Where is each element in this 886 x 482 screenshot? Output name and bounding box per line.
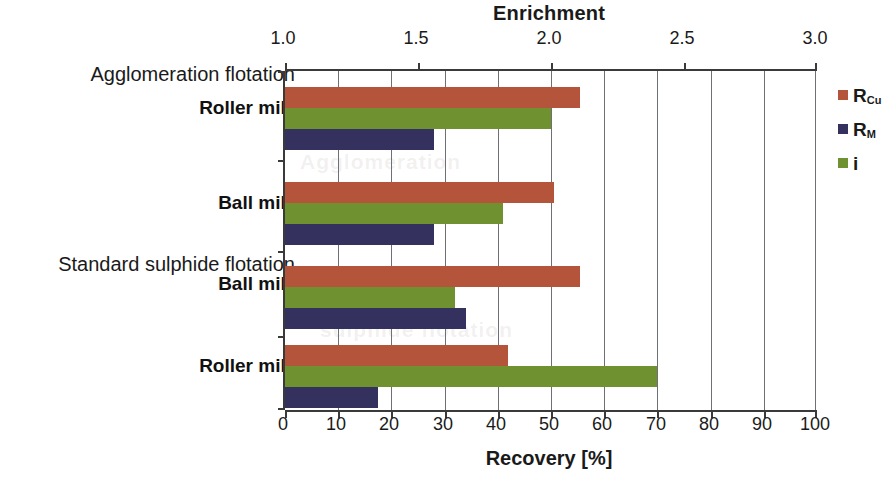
category-label-ball-mill-2: Ball mill: [218, 273, 291, 295]
legend-label-rm: RM: [853, 120, 876, 139]
bottom-tick-label-100: 100: [785, 414, 845, 435]
legend-item-i[interactable]: i: [838, 146, 886, 180]
top-axis-title: Enrichment: [283, 2, 815, 25]
left-tick-1: [278, 160, 285, 162]
legend-label-rcu: RCu: [853, 86, 881, 105]
category-label-roller-mill-2: Roller mill: [199, 355, 291, 377]
left-tick-2: [278, 251, 285, 253]
chart-figure: Agglomeration sulphide flotation Enrichm…: [0, 0, 886, 482]
legend: RCu RM i: [838, 78, 886, 180]
category-label-roller-mill-1: Roller mill: [199, 97, 291, 119]
bar-rm-group3: [285, 308, 466, 329]
bar-i-group1: [285, 108, 551, 129]
bar-i-group4: [285, 366, 657, 387]
top-tickmark-4: [684, 63, 686, 69]
left-tick-4: [278, 408, 285, 410]
bottom-tick-label-20: 20: [359, 414, 419, 435]
bottom-tick-label-80: 80: [679, 414, 739, 435]
top-tick-label-1: 1.0: [253, 28, 313, 49]
top-tickmark-1: [285, 63, 287, 69]
gridline-50: [551, 71, 552, 410]
left-tick-0: [278, 71, 285, 73]
bottom-tick-label-0: 0: [253, 414, 313, 435]
bottom-tick-label-50: 50: [519, 414, 579, 435]
top-tick-label-2: 1.5: [386, 28, 446, 49]
bottom-axis-title: Recovery [%]: [283, 447, 815, 470]
left-tick-3: [278, 336, 285, 338]
legend-item-rcu[interactable]: RCu: [838, 78, 886, 112]
bottom-tick-label-90: 90: [732, 414, 792, 435]
bar-rm-group4: [285, 387, 378, 408]
legend-swatch-rm-icon: [838, 124, 848, 134]
bar-rcu-group3: [285, 266, 580, 287]
plot-area: [283, 71, 817, 410]
bar-rcu-group1: [285, 87, 580, 108]
legend-swatch-i-icon: [838, 158, 848, 168]
group-header-agglomeration: Agglomeration flotation: [90, 63, 295, 86]
legend-swatch-rcu-icon: [838, 90, 848, 100]
top-tickmark-5: [815, 63, 817, 69]
bottom-tick-label-60: 60: [572, 414, 632, 435]
top-tickmark-2: [418, 63, 420, 69]
bar-rm-group1: [285, 129, 434, 150]
top-tick-label-5: 3.0: [785, 28, 845, 49]
bar-rm-group2: [285, 224, 434, 245]
gridline-60: [604, 71, 605, 410]
top-tick-label-3: 2.0: [519, 28, 579, 49]
bar-i-group3: [285, 287, 455, 308]
gridline-80: [711, 71, 712, 410]
legend-item-rm[interactable]: RM: [838, 112, 886, 146]
bottom-tick-label-40: 40: [466, 414, 526, 435]
bar-i-group2: [285, 203, 503, 224]
top-tick-label-4: 2.5: [652, 28, 712, 49]
gridline-70: [657, 71, 658, 410]
top-tickmark-3: [551, 63, 553, 69]
bottom-tick-label-70: 70: [626, 414, 686, 435]
gridline-100: [815, 71, 816, 410]
gridline-90: [764, 71, 765, 410]
legend-label-i: i: [853, 154, 858, 173]
bar-rcu-group2: [285, 182, 554, 203]
bar-rcu-group4: [285, 345, 508, 366]
bottom-tick-label-30: 30: [413, 414, 473, 435]
bottom-tick-label-10: 10: [306, 414, 366, 435]
category-label-ball-mill-1: Ball mill: [218, 192, 291, 214]
